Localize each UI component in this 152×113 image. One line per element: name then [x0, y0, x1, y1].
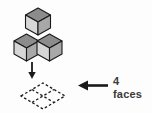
faces-unit-label: faces [113, 88, 152, 101]
figure-root: 4 faces [0, 0, 152, 113]
base-grid-outline [21, 83, 65, 109]
top-cube [26, 8, 51, 35]
left-arrow [78, 81, 108, 91]
down-arrow-head [28, 72, 35, 79]
dashed-base-grid [21, 83, 65, 109]
front-left-cube [14, 34, 39, 61]
faces-callout: 4 faces [113, 75, 152, 101]
left-arrow-head [78, 81, 88, 91]
three-cube-stack [14, 8, 62, 61]
faces-count: 4 [113, 75, 152, 88]
down-arrow [28, 62, 35, 79]
front-right-cube [37, 34, 62, 61]
